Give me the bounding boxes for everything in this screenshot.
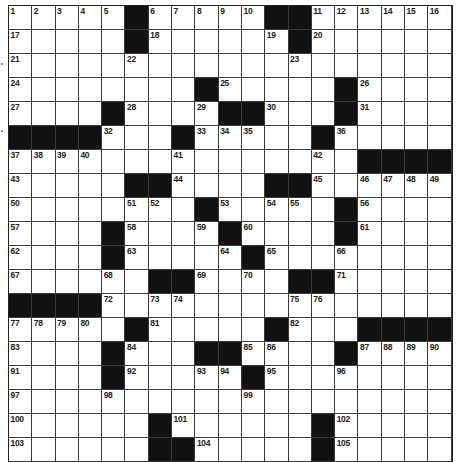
grid-cell[interactable] <box>102 438 125 462</box>
grid-cell[interactable]: 70 <box>242 270 265 294</box>
grid-cell[interactable] <box>149 78 172 102</box>
grid-cell[interactable] <box>382 54 405 78</box>
grid-cell[interactable] <box>358 270 381 294</box>
grid-cell[interactable] <box>125 270 148 294</box>
grid-cell[interactable]: 7 <box>172 6 195 30</box>
grid-cell[interactable]: 58 <box>125 222 148 246</box>
grid-cell[interactable] <box>312 318 335 342</box>
grid-cell[interactable] <box>428 78 451 102</box>
grid-cell[interactable] <box>149 102 172 126</box>
grid-cell[interactable] <box>172 102 195 126</box>
grid-cell[interactable] <box>172 246 195 270</box>
grid-cell[interactable] <box>56 174 79 198</box>
grid-cell[interactable]: 73 <box>149 294 172 318</box>
grid-cell[interactable] <box>102 414 125 438</box>
grid-cell[interactable] <box>382 414 405 438</box>
grid-cell[interactable]: 72 <box>102 294 125 318</box>
grid-cell[interactable]: 27 <box>9 102 32 126</box>
grid-cell[interactable] <box>335 318 358 342</box>
grid-cell[interactable]: 22 <box>125 54 148 78</box>
grid-cell[interactable] <box>428 30 451 54</box>
grid-cell[interactable] <box>289 126 312 150</box>
grid-cell[interactable] <box>312 390 335 414</box>
grid-cell[interactable] <box>149 342 172 366</box>
grid-cell[interactable]: 39 <box>56 150 79 174</box>
grid-cell[interactable] <box>428 198 451 222</box>
grid-cell[interactable]: 74 <box>172 294 195 318</box>
grid-cell[interactable] <box>265 438 288 462</box>
grid-cell[interactable]: 16 <box>428 6 451 30</box>
grid-cell[interactable]: 2 <box>32 6 55 30</box>
grid-cell[interactable] <box>312 78 335 102</box>
grid-cell[interactable] <box>149 150 172 174</box>
grid-cell[interactable] <box>312 102 335 126</box>
grid-cell[interactable] <box>219 54 242 78</box>
grid-cell[interactable]: 13 <box>358 6 381 30</box>
grid-cell[interactable] <box>149 54 172 78</box>
grid-cell[interactable]: 32 <box>102 126 125 150</box>
grid-cell[interactable]: 94 <box>219 366 242 390</box>
grid-cell[interactable]: 89 <box>405 342 428 366</box>
grid-cell[interactable] <box>102 318 125 342</box>
grid-cell[interactable] <box>79 174 102 198</box>
grid-cell[interactable] <box>102 78 125 102</box>
grid-cell[interactable]: 88 <box>382 342 405 366</box>
grid-cell[interactable] <box>358 294 381 318</box>
grid-cell[interactable] <box>219 294 242 318</box>
grid-cell[interactable]: 30 <box>265 102 288 126</box>
grid-cell[interactable]: 59 <box>195 222 218 246</box>
grid-cell[interactable] <box>289 78 312 102</box>
grid-cell[interactable] <box>79 414 102 438</box>
grid-cell[interactable]: 12 <box>335 6 358 30</box>
grid-cell[interactable] <box>358 438 381 462</box>
grid-cell[interactable]: 45 <box>312 174 335 198</box>
grid-cell[interactable] <box>242 414 265 438</box>
grid-cell[interactable] <box>428 438 451 462</box>
grid-cell[interactable] <box>56 342 79 366</box>
grid-cell[interactable]: 66 <box>335 246 358 270</box>
grid-cell[interactable] <box>242 294 265 318</box>
grid-cell[interactable] <box>56 366 79 390</box>
grid-cell[interactable]: 91 <box>9 366 32 390</box>
grid-cell[interactable] <box>32 54 55 78</box>
grid-cell[interactable]: 64 <box>219 246 242 270</box>
grid-cell[interactable] <box>195 390 218 414</box>
grid-cell[interactable] <box>358 366 381 390</box>
grid-cell[interactable] <box>382 102 405 126</box>
grid-cell[interactable] <box>102 198 125 222</box>
grid-cell[interactable]: 101 <box>172 414 195 438</box>
grid-cell[interactable] <box>405 126 428 150</box>
grid-cell[interactable]: 5 <box>102 6 125 30</box>
grid-cell[interactable] <box>219 438 242 462</box>
grid-cell[interactable] <box>242 198 265 222</box>
grid-cell[interactable] <box>32 438 55 462</box>
grid-cell[interactable]: 104 <box>195 438 218 462</box>
grid-cell[interactable] <box>428 270 451 294</box>
grid-cell[interactable] <box>289 150 312 174</box>
grid-cell[interactable] <box>32 270 55 294</box>
grid-cell[interactable] <box>172 198 195 222</box>
grid-cell[interactable] <box>125 294 148 318</box>
grid-cell[interactable] <box>172 318 195 342</box>
grid-cell[interactable] <box>79 246 102 270</box>
grid-cell[interactable] <box>219 414 242 438</box>
grid-cell[interactable] <box>428 294 451 318</box>
grid-cell[interactable] <box>102 54 125 78</box>
grid-cell[interactable]: 61 <box>358 222 381 246</box>
grid-cell[interactable]: 38 <box>32 150 55 174</box>
grid-cell[interactable] <box>242 438 265 462</box>
grid-cell[interactable] <box>32 30 55 54</box>
grid-cell[interactable] <box>219 30 242 54</box>
grid-cell[interactable] <box>125 414 148 438</box>
grid-cell[interactable] <box>312 342 335 366</box>
grid-cell[interactable]: 44 <box>172 174 195 198</box>
grid-cell[interactable] <box>56 246 79 270</box>
grid-cell[interactable]: 47 <box>382 174 405 198</box>
grid-cell[interactable]: 78 <box>32 318 55 342</box>
grid-cell[interactable]: 76 <box>312 294 335 318</box>
grid-cell[interactable] <box>405 30 428 54</box>
grid-cell[interactable] <box>102 150 125 174</box>
grid-cell[interactable]: 19 <box>265 30 288 54</box>
grid-cell[interactable] <box>265 222 288 246</box>
grid-cell[interactable] <box>32 390 55 414</box>
